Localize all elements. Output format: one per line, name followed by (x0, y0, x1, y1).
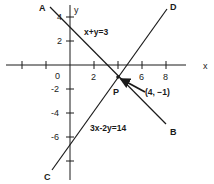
point-c-label: C (44, 172, 51, 182)
y-axis-label: y (74, 5, 79, 15)
x-axis-label: x (203, 61, 208, 71)
y-tick-label-neg2: -2 (51, 84, 59, 94)
intersection-point (116, 75, 120, 79)
origin-label: 0 (55, 71, 60, 81)
point-d-label: D (170, 2, 177, 12)
x-tick-label-8: 8 (163, 72, 168, 82)
point-p-label: P (113, 87, 119, 97)
x-tick-label-6: 6 (139, 72, 144, 82)
y-tick-label-2: 2 (57, 36, 62, 46)
equation-cd-label: 3x-2y=14 (90, 123, 126, 133)
equation-ab-label: x+y=3 (84, 27, 108, 37)
x-tick-label-2: 2 (91, 72, 96, 82)
y-tick-label-neg4: -4 (51, 108, 59, 118)
intersection-coord-label: (4, −1) (145, 87, 170, 97)
coordinate-graph: x y 0 2 6 8 4 2 -2 -4 -6 A B x+y=3 C D 3… (0, 0, 214, 184)
point-a-label: A (39, 3, 46, 13)
y-tick-label-neg6: -6 (51, 132, 59, 142)
point-b-label: B (170, 127, 177, 137)
